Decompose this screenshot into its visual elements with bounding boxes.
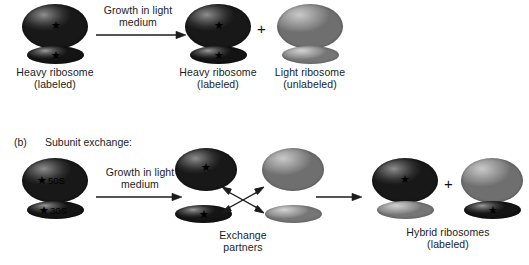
- ribosome-subunit-exchange-figure: ★ ★ Heavy ribosome (labeled) Growth in l…: [0, 0, 529, 265]
- star-icon: ★: [37, 175, 47, 186]
- star-icon: ★: [214, 20, 224, 31]
- panel-b-label: (b): [14, 136, 27, 148]
- star-icon: ★: [51, 20, 61, 31]
- panel-b-exchange-light-small-subunit: [265, 205, 322, 223]
- star-icon: ★: [201, 162, 211, 173]
- panel-b-exchange-caption: Exchange partners: [198, 229, 288, 253]
- star-icon: ★: [400, 174, 410, 185]
- panel-b-hybrid2-large-subunit: [461, 158, 523, 203]
- panel-b-growth-arrow: [96, 191, 186, 203]
- panel-b-exchange-crossed-arrows: [219, 184, 267, 216]
- panel-a-growth-arrow: [96, 29, 190, 41]
- panel-b-50s-label: 50S: [48, 176, 65, 186]
- panel-a-left-caption: Heavy ribosome (labeled): [0, 66, 115, 90]
- panel-a-product2-small-subunit: [282, 46, 339, 64]
- panel-b-products-caption: Hybrid ribosomes (labeled): [388, 226, 508, 250]
- panel-b-plus-sign: +: [444, 176, 453, 191]
- panel-b-products-arrow: [316, 191, 364, 203]
- panel-b-heading: Subunit exchange:: [45, 136, 132, 148]
- panel-b-30s-label: 30S: [50, 206, 67, 216]
- star-icon: ★: [199, 209, 209, 220]
- panel-a-product2-large-subunit: [277, 4, 343, 49]
- panel-b-hybrid1-small-subunit: [377, 201, 434, 219]
- panel-b-exchange-light-large-subunit: [262, 148, 324, 191]
- star-icon: ★: [51, 50, 61, 61]
- star-icon: ★: [488, 205, 498, 216]
- panel-a-product2-caption: Light ribosome (unlabeled): [250, 66, 370, 90]
- panel-a-arrow-label: Growth in light medium: [88, 4, 188, 28]
- star-icon: ★: [214, 50, 224, 61]
- star-icon: ★: [39, 205, 49, 216]
- panel-a-plus-sign: +: [257, 21, 266, 36]
